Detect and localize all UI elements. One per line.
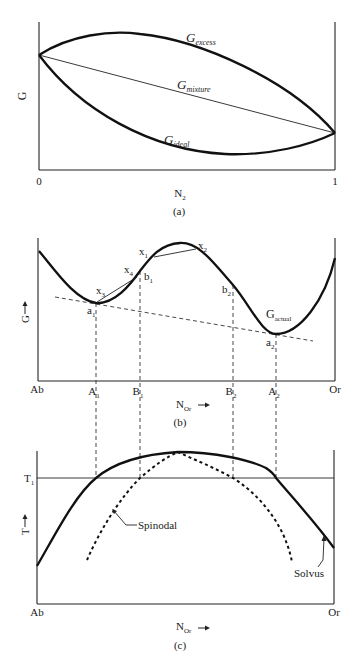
panel-a-y-label: G bbox=[15, 91, 29, 100]
solvus-annotation: Solvus bbox=[294, 535, 327, 579]
x3-label: x3 bbox=[96, 284, 106, 299]
g-ideal-label: Gideal bbox=[164, 132, 190, 149]
svg-text:NOr: NOr bbox=[176, 398, 192, 413]
panel-b-ab-label: Ab bbox=[30, 383, 44, 395]
panel-c-or-label: Or bbox=[328, 606, 340, 618]
svg-text:NOr: NOr bbox=[176, 620, 192, 635]
a1-label: a1 bbox=[87, 304, 96, 319]
panel-a-x-label: N2 bbox=[174, 187, 186, 202]
panel-c-caption: (c) bbox=[174, 639, 187, 652]
panel-a-caption: (a) bbox=[173, 205, 186, 218]
b1-tick-label: B1 bbox=[133, 385, 144, 400]
solvus-label: Solvus bbox=[294, 567, 324, 579]
x2-label: x2 bbox=[198, 239, 208, 254]
a2-label: a2 bbox=[266, 336, 275, 351]
panel-c-y-label: T bbox=[19, 514, 31, 535]
panel-c-ab-label: Ab bbox=[30, 606, 44, 618]
svg-text:G: G bbox=[19, 315, 31, 323]
solvus-curve bbox=[37, 452, 334, 566]
panel-b-caption: (b) bbox=[174, 416, 187, 429]
spinodal-label: Spinodal bbox=[138, 519, 177, 531]
g-excess-label: Gexcess bbox=[186, 30, 216, 47]
x4-label: x4 bbox=[124, 263, 134, 278]
b1-label: b1 bbox=[144, 270, 154, 285]
panel-c-x-label: NOr bbox=[176, 620, 210, 635]
figure-canvas: Gexcess Gmixture Gideal G 0 1 N2 (a) x3 … bbox=[0, 0, 356, 671]
b2-tick-label: B2 bbox=[226, 385, 237, 400]
panel-a: Gexcess Gmixture Gideal G 0 1 N2 (a) bbox=[15, 22, 338, 218]
panel-b-y-label: G bbox=[19, 301, 31, 323]
a1-tick-label: A1 bbox=[88, 385, 100, 400]
panel-b-or-label: Or bbox=[329, 383, 341, 395]
svg-text:T: T bbox=[19, 528, 31, 535]
panel-a-x-tick-0: 0 bbox=[36, 175, 42, 187]
a2-tick-label: A2 bbox=[268, 385, 280, 400]
b2-label: b2 bbox=[222, 283, 232, 298]
x1-label: x1 bbox=[139, 245, 149, 260]
panel-b: x3 x4 x1 x2 b1 b2 a1 a2 Gactual G Ab Or … bbox=[19, 238, 341, 478]
panel-b-x-label: NOr bbox=[176, 398, 210, 413]
panel-c: T1 T Spinodal Solvus Ab Or NOr (c) bbox=[19, 450, 340, 652]
panel-a-x-tick-1: 1 bbox=[332, 175, 338, 187]
g-mixture-label: Gmixture bbox=[177, 77, 211, 94]
t1-label: T1 bbox=[24, 472, 35, 487]
g-actual-label: Gactual bbox=[266, 307, 291, 323]
spinodal-annotation: Spinodal bbox=[112, 509, 177, 531]
g-excess-curve bbox=[39, 33, 335, 133]
spinodal-curve bbox=[87, 452, 292, 562]
